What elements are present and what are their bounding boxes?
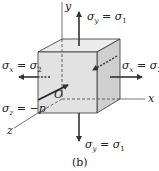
x-axis-label: x xyxy=(148,92,155,105)
sigma-x-left-label: σx = σ2 xyxy=(2,59,42,74)
y-axis-label: y xyxy=(64,0,72,13)
sigma-y-top-label: σy = σ1 xyxy=(87,10,127,25)
stress-element-diagram: y x z O σy = σ1 σy = σ1 σx = σ2 σx = σ2 … xyxy=(0,0,159,171)
front-face xyxy=(38,52,97,113)
sigma-z-label: σz = −p xyxy=(2,102,46,117)
z-axis xyxy=(14,113,38,128)
z-axis-label: z xyxy=(6,124,13,137)
figure-caption: (b) xyxy=(72,156,88,169)
sigma-y-bottom-label: σy = σ1 xyxy=(85,138,125,153)
sigma-x-right-label: σx = σ2 xyxy=(122,59,159,74)
side-face xyxy=(97,39,120,113)
